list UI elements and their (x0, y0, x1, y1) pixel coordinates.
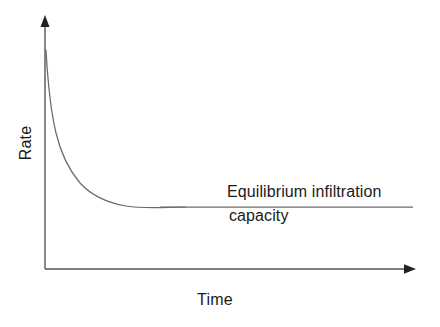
y-axis-label: Rate (18, 117, 34, 169)
infiltration-rate-curve (46, 50, 185, 208)
equilibrium-annotation-line-1: Equilibrium infiltration (227, 180, 427, 204)
equilibrium-annotation-line-2: capacity (227, 204, 427, 228)
x-axis-arrowhead-icon (404, 264, 416, 274)
y-axis-arrowhead-icon (41, 15, 50, 27)
infiltration-rate-chart: Rate Time Equilibrium infiltration capac… (0, 0, 440, 327)
chart-canvas (0, 0, 440, 327)
x-axis-label: Time (165, 292, 265, 308)
equilibrium-annotation: Equilibrium infiltration capacity (227, 180, 427, 228)
